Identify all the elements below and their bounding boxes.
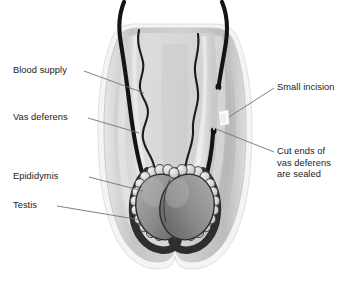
label-cut-ends-line-1: Cut ends of <box>277 146 331 158</box>
label-cut-ends-of-vas-deferens-are-sealed: Cut ends of vas deferens are sealed <box>277 146 331 181</box>
vasectomy-diagram <box>0 0 348 283</box>
small-incision <box>218 110 229 126</box>
label-cut-ends-line-2: vas deferens <box>277 158 331 170</box>
label-blood-supply: Blood supply <box>13 65 67 77</box>
label-cut-ends-line-3: are sealed <box>277 169 331 181</box>
label-epididymis: Epididymis <box>13 171 58 183</box>
incision-inner-shadow <box>220 113 227 125</box>
label-testis: Testis <box>13 200 37 212</box>
label-small-incision: Small incision <box>277 82 335 94</box>
label-vas-deferens: Vas deferens <box>13 112 68 124</box>
